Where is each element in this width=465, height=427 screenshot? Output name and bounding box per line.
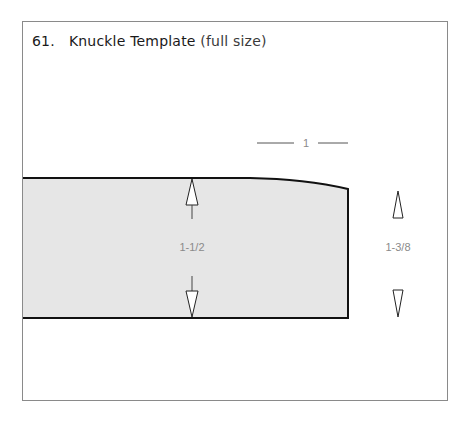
template-drawing: 1 1-1/2 1-3/8 [0, 0, 465, 427]
right-height-label: 1-3/8 [385, 241, 410, 253]
arrow-up-icon [393, 191, 403, 218]
width-dimension-label: 1 [303, 137, 309, 149]
arrow-down-icon [393, 290, 403, 317]
left-height-label: 1-1/2 [179, 241, 204, 253]
right-height-dimension: 1-3/8 [385, 191, 410, 317]
width-dimension: 1 [257, 137, 348, 149]
